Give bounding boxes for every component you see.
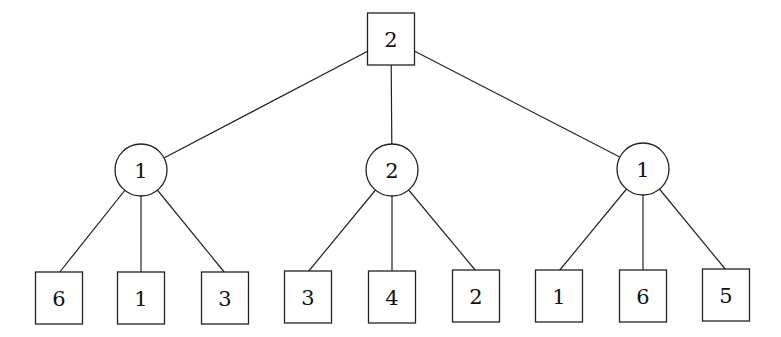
node-label: 1 (636, 158, 649, 182)
node-label: 6 (52, 287, 65, 311)
node-label: 4 (385, 286, 398, 310)
node-label: 1 (552, 285, 565, 309)
edge-root-to-m3 (391, 39, 643, 169)
leaf-node-9: 5 (703, 269, 750, 321)
edge-root-to-m1 (141, 39, 391, 170)
chance-node-2: 2 (366, 144, 418, 196)
node-label: 1 (134, 287, 147, 311)
leaf-node-5: 4 (369, 271, 416, 323)
leaf-node-4: 3 (285, 271, 332, 323)
node-label: 5 (719, 284, 732, 308)
node-label: 2 (384, 28, 397, 52)
node-label: 2 (385, 159, 398, 183)
node-label: 1 (134, 159, 147, 183)
node-label: 6 (636, 285, 649, 309)
root-node: 2 (368, 13, 415, 65)
chance-node-1: 1 (115, 144, 167, 196)
tree-nodes: 2121613342165 (36, 13, 750, 324)
node-label: 2 (469, 285, 482, 309)
leaf-node-6: 2 (453, 270, 500, 322)
node-label: 3 (218, 287, 231, 311)
leaf-node-1: 6 (36, 272, 83, 324)
chance-node-3: 1 (617, 143, 669, 195)
leaf-node-2: 1 (118, 272, 165, 324)
game-tree-diagram: 2121613342165 (0, 0, 781, 337)
node-label: 3 (301, 286, 314, 310)
leaf-node-7: 1 (536, 270, 583, 322)
leaf-node-8: 6 (620, 270, 667, 322)
leaf-node-3: 3 (202, 272, 249, 324)
